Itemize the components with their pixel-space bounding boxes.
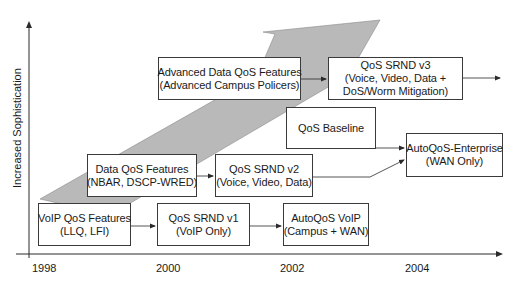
box-title: AutoQoS VoIP bbox=[291, 212, 361, 225]
box-subtitle: (Voice, Video, Data) bbox=[216, 176, 312, 189]
box-title: Data QoS Features bbox=[95, 163, 188, 176]
box-qos-baseline: QoS Baseline bbox=[286, 107, 376, 149]
box-subtitle: (NBAR, DSCP-WRED) bbox=[87, 176, 197, 189]
box-title: QoS Baseline bbox=[298, 122, 364, 135]
box-title: QoS SRND v1 bbox=[169, 212, 239, 225]
y-axis-arrowhead-icon bbox=[26, 21, 32, 28]
box-title: AutoQoS-Enterprise bbox=[406, 142, 503, 155]
x-tick-2004: 2004 bbox=[405, 262, 429, 274]
box-subtitle: (Voice, Video, Data + bbox=[345, 72, 446, 85]
box-title: QoS SRND v3 bbox=[361, 59, 431, 72]
connector-srnd-v2-to-autoqos-enterprise bbox=[312, 160, 404, 177]
box-qos-srnd-v2: QoS SRND v2 (Voice, Video, Data) bbox=[215, 154, 313, 197]
x-tick-2002: 2002 bbox=[280, 262, 304, 274]
x-tick-1998: 1998 bbox=[32, 262, 56, 274]
box-subtitle: (LLQ, LFI) bbox=[60, 225, 109, 238]
box-advanced-data-qos-features: Advanced Data QoS Features (Advanced Cam… bbox=[158, 57, 301, 100]
box-data-qos-features: Data QoS Features (NBAR, DSCP-WRED) bbox=[87, 154, 197, 197]
box-title: VoIP QoS Features bbox=[38, 212, 131, 225]
box-qos-srnd-v1: QoS SRND v1 (VoIP Only) bbox=[157, 203, 250, 246]
box-subtitle-2: DoS/Worm Mitigation) bbox=[343, 85, 448, 98]
x-axis-arrowhead-icon bbox=[496, 251, 503, 257]
y-axis-label: Increased Sophistication bbox=[11, 68, 23, 188]
box-autoqos-enterprise: AutoQoS-Enterprise (WAN Only) bbox=[406, 133, 503, 177]
box-qos-srnd-v3: QoS SRND v3 (Voice, Video, Data + DoS/Wo… bbox=[328, 57, 463, 100]
qos-evolution-diagram: Increased Sophistication 1998 2000 2002 … bbox=[0, 0, 513, 281]
box-voip-qos-features: VoIP QoS Features (LLQ, LFI) bbox=[38, 203, 131, 246]
box-autoqos-voip: AutoQoS VoIP (Campus + WAN) bbox=[283, 203, 369, 246]
box-title: QoS SRND v2 bbox=[229, 163, 299, 176]
box-subtitle: (Advanced Campus Policers) bbox=[160, 79, 300, 92]
box-subtitle: (VoIP Only) bbox=[176, 225, 231, 238]
box-title: Advanced Data QoS Features bbox=[157, 66, 301, 79]
box-subtitle: (Campus + WAN) bbox=[284, 225, 369, 238]
box-subtitle: (WAN Only) bbox=[426, 155, 483, 168]
x-tick-2000: 2000 bbox=[156, 262, 180, 274]
